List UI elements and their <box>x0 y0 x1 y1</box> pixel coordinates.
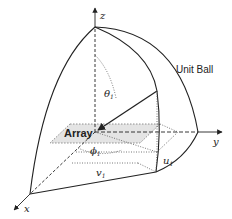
phi-label: ϕ1 <box>90 145 101 157</box>
v-label: v1 <box>96 167 105 179</box>
unit-ball-label: Unit Ball <box>176 64 213 75</box>
sphere-outer-right-arc <box>95 27 198 132</box>
y-axis-label: y <box>212 136 219 147</box>
x-axis-label: x <box>24 203 30 214</box>
u-label: u1 <box>163 155 173 167</box>
sphere-outer-left-arc <box>30 27 95 194</box>
z-axis-label: z <box>99 10 106 21</box>
theta-label: θ1 <box>104 88 114 100</box>
unit-ball-diagram: z y x Unit Ball Array θ1 ϕ1 v1 u1 <box>0 0 232 219</box>
array-label: Array <box>64 127 94 139</box>
sphere-meridian-arc <box>95 27 159 172</box>
